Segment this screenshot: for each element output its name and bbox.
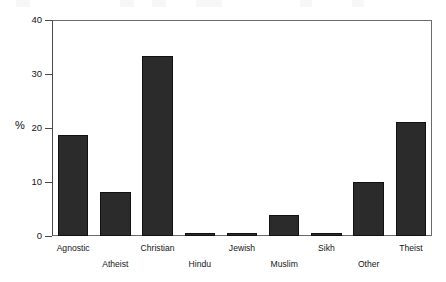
y-axis-tick-label: 0 bbox=[8, 231, 42, 241]
x-axis-label-agnostic: Agnostic bbox=[57, 243, 90, 253]
y-axis-tick bbox=[45, 182, 52, 183]
bar bbox=[227, 233, 257, 236]
x-axis-label-jewish: Jewish bbox=[229, 243, 255, 253]
y-axis-tick bbox=[45, 74, 52, 75]
x-axis-label-christian: Christian bbox=[141, 243, 175, 253]
y-axis-tick bbox=[45, 20, 52, 21]
bar bbox=[100, 192, 130, 236]
x-axis-label-other: Other bbox=[358, 259, 380, 269]
bar bbox=[185, 233, 215, 236]
bar bbox=[311, 233, 341, 236]
bar-series bbox=[52, 20, 432, 236]
bar bbox=[353, 182, 383, 236]
bar-chart: % 010203040 AgnosticAtheistChristianHind… bbox=[0, 0, 446, 282]
x-axis-label-sikh: Sikh bbox=[318, 243, 335, 253]
y-axis-tick bbox=[45, 236, 52, 237]
bar bbox=[58, 135, 88, 236]
bar bbox=[142, 56, 172, 236]
y-axis-tick-label: 10 bbox=[8, 177, 42, 187]
scan-artifact-strip bbox=[0, 0, 446, 7]
x-axis-label-theist: Theist bbox=[399, 243, 422, 253]
x-axis-label-atheist: Atheist bbox=[102, 259, 128, 269]
y-axis-tick bbox=[45, 128, 52, 129]
bar bbox=[269, 215, 299, 236]
y-axis-tick-label: 20 bbox=[8, 123, 42, 133]
bar bbox=[396, 122, 426, 236]
x-axis-label-muslim: Muslim bbox=[271, 259, 298, 269]
y-axis-tick-label: 40 bbox=[8, 15, 42, 25]
x-axis-label-hindu: Hindu bbox=[189, 259, 211, 269]
y-axis-tick-label: 30 bbox=[8, 69, 42, 79]
